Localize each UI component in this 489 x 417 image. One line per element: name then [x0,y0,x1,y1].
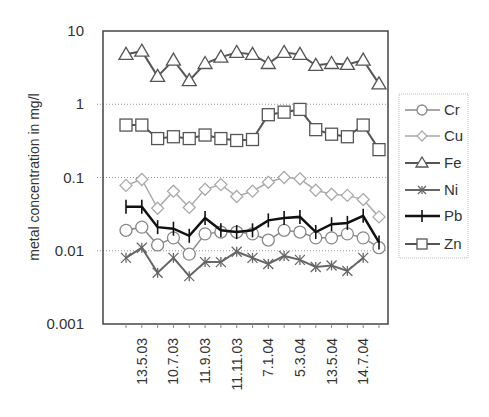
series-cu [120,172,385,223]
x-axis-tick-labels: 13.5.0310.7.0311.9.0311.11.037.1.045.3.0… [134,338,371,391]
legend-label: Cu [444,127,463,144]
data-point [341,131,353,143]
data-point [166,53,180,65]
x-tick-label: 7.1.04 [260,338,276,377]
chart: 1010.10.010.001 13.5.0310.7.0311.9.0311.… [0,0,489,417]
data-point [417,239,427,249]
data-point [231,134,243,146]
data-point [167,131,179,143]
data-point [262,176,274,188]
data-point [294,173,306,185]
x-tick-label: 13.5.03 [134,338,150,385]
data-point [357,119,369,131]
legend-label: Fe [444,154,462,171]
data-point [183,248,195,260]
x-tick-label: 13.5.04 [324,338,340,385]
data-point [372,77,386,89]
data-point [326,232,338,244]
data-point [356,53,370,65]
data-point [230,45,244,57]
x-tick-label: 10.7.03 [165,338,181,385]
data-point [341,189,353,201]
data-point [120,224,132,236]
data-point [325,57,339,69]
series-fe [119,44,386,89]
data-point [120,179,132,191]
series-zn [120,103,385,155]
data-point [120,119,132,131]
data-point [199,129,211,141]
data-point [417,105,427,115]
data-point [231,191,243,203]
data-point [326,128,338,140]
data-point [215,133,227,145]
x-tick-label: 14.7.04 [355,338,371,385]
y-tick-label: 0.01 [55,242,84,259]
y-tick-label: 0.1 [63,169,84,186]
y-axis-title: metal concentration in mg/l [26,93,42,260]
data-point [294,103,306,115]
data-point [152,133,164,145]
data-point [310,184,322,196]
data-point [247,134,259,146]
data-point [135,44,149,56]
data-point [152,239,164,251]
data-point [136,221,148,233]
legend-label: Pb [444,207,462,224]
legend-label: Ni [444,181,458,198]
data-point [294,226,306,238]
legend-label: Cr [444,101,460,118]
data-point [373,144,385,156]
data-point [215,179,227,191]
y-tick-label: 10 [67,22,84,39]
y-axis-tick-labels: 1010.10.010.001 [46,22,84,332]
data-point [262,234,274,246]
data-point [277,45,291,57]
data-point [261,57,275,69]
data-point [326,188,338,200]
legend: CrCuFeNiPbZn [399,94,468,258]
legend-label: Zn [444,235,462,252]
data-point [357,232,369,244]
data-point [136,173,148,185]
data-series [119,44,386,281]
x-tick-label: 11.9.03 [197,338,213,384]
data-point [278,106,290,118]
y-tick-label: 1 [76,95,84,112]
data-point [183,133,195,145]
x-tick-label: 5.3.04 [292,338,308,377]
x-tick-label: 11.11.03 [229,338,245,391]
data-point [310,124,322,136]
data-point [247,185,259,197]
legend-box [399,94,468,258]
data-point [262,109,274,121]
y-tick-label: 0.001 [46,315,84,332]
data-point [136,119,148,131]
data-point [278,224,290,236]
data-point [199,228,211,240]
data-point [278,172,290,184]
